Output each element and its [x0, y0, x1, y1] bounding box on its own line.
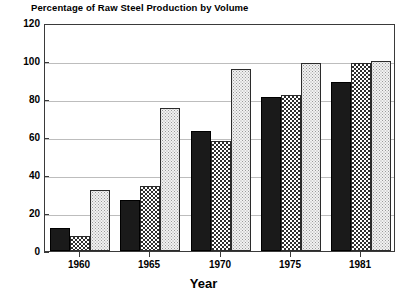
x-tick-label-1970: 1970	[190, 260, 250, 270]
gridline-100	[45, 63, 394, 64]
x-tick-label-1960: 1960	[49, 260, 109, 270]
y-tick-label-60: 60	[6, 133, 40, 143]
chart-title: Percentage of Raw Steel Production by Vo…	[31, 2, 249, 13]
bar-1981-series-2	[351, 63, 371, 251]
bar-1970-series-2	[211, 141, 231, 251]
y-tick-mark-100	[44, 62, 49, 63]
x-tick-mark-1960	[79, 252, 80, 257]
bar-1965-series-3	[160, 108, 180, 251]
bar-1970-series-3	[231, 69, 251, 251]
bar-1975-series-1	[261, 97, 281, 251]
plot-area	[44, 24, 395, 252]
y-tick-mark-20	[44, 214, 49, 215]
bar-1960-series-2	[70, 236, 90, 251]
bar-chart: Percentage of Raw Steel Production by Vo…	[0, 0, 407, 299]
x-tick-label-1981: 1981	[330, 260, 390, 270]
y-tick-label-120: 120	[6, 19, 40, 29]
y-tick-mark-120	[44, 24, 49, 25]
x-tick-label-1965: 1965	[119, 260, 179, 270]
y-tick-label-40: 40	[6, 171, 40, 181]
y-tick-label-0: 0	[6, 247, 40, 257]
x-tick-label-1975: 1975	[260, 260, 320, 270]
bar-1960-series-1	[50, 228, 70, 251]
y-tick-mark-0	[44, 252, 49, 253]
y-tick-label-80: 80	[6, 95, 40, 105]
y-tick-mark-80	[44, 100, 49, 101]
x-axis-title: Year	[0, 276, 407, 291]
x-tick-mark-1975	[290, 252, 291, 257]
bar-1960-series-3	[90, 190, 110, 251]
bar-1981-series-3	[371, 61, 391, 251]
y-tick-label-20: 20	[6, 209, 40, 219]
bar-1965-series-2	[140, 186, 160, 251]
y-tick-mark-60	[44, 138, 49, 139]
bar-1975-series-3	[301, 63, 321, 251]
x-tick-mark-1970	[220, 252, 221, 257]
bar-1975-series-2	[281, 95, 301, 251]
bar-1981-series-1	[331, 82, 351, 251]
x-tick-mark-1981	[360, 252, 361, 257]
y-tick-label-100: 100	[6, 57, 40, 67]
bar-1965-series-1	[120, 200, 140, 251]
bar-1970-series-1	[191, 131, 211, 251]
y-axis: 020406080100120	[0, 0, 40, 299]
x-tick-mark-1965	[149, 252, 150, 257]
y-tick-mark-40	[44, 176, 49, 177]
